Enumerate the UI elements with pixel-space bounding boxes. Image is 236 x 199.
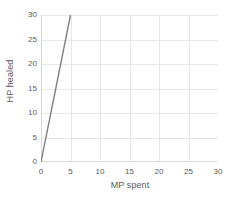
plot-svg (41, 15, 218, 162)
y-tick-label: 10 (17, 109, 37, 117)
plot-area (41, 15, 218, 162)
x-tick-label: 20 (147, 168, 171, 176)
grid-lines (41, 15, 218, 162)
x-tick-label: 5 (59, 168, 83, 176)
x-tick-label: 10 (88, 168, 112, 176)
y-tick-label: 20 (17, 60, 37, 68)
x-tick-label: 0 (29, 168, 53, 176)
data-line-0 (41, 15, 71, 162)
y-tick-label: 15 (17, 85, 37, 93)
x-tick-label: 25 (177, 168, 201, 176)
x-tick-label: 15 (118, 168, 142, 176)
y-tick-label: 25 (17, 36, 37, 44)
data-series-group (41, 15, 71, 162)
y-tick-label: 30 (17, 11, 37, 19)
y-tick-label: 0 (17, 158, 37, 166)
axis-lines (41, 15, 218, 162)
y-axis-title-text: HP healed (5, 60, 15, 103)
x-tick-label: 30 (206, 168, 230, 176)
y-tick-label: 5 (17, 134, 37, 142)
chart-container: HP healed 051015202530 051015202530 MP s… (0, 0, 236, 199)
x-axis-title: MP spent (41, 180, 219, 190)
